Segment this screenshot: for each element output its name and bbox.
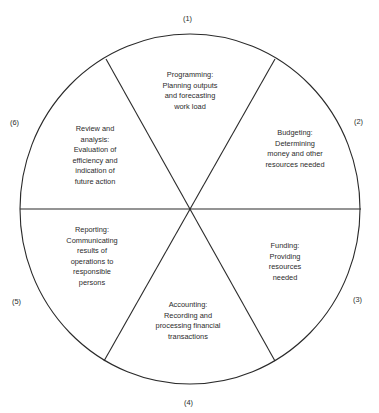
segment-number-2: (2) [354, 117, 363, 126]
segment-review: Review and analysis: Evaluation of effic… [45, 124, 145, 188]
segment-programming: Programming: Planning outputs and foreca… [140, 70, 240, 112]
segment-number-4: (4) [184, 398, 193, 407]
segment-number-1: (1) [183, 14, 192, 23]
segment-text: and forecasting [140, 91, 240, 102]
segment-text: processing financial [138, 321, 238, 332]
segment-text: persons [42, 278, 142, 289]
segment-text: money and other [245, 149, 345, 160]
segment-text: work load [140, 102, 240, 113]
segment-accounting: Accounting: Recording and processing fin… [138, 300, 238, 342]
segment-title: Reporting: [42, 225, 142, 236]
segment-text: future action [45, 177, 145, 188]
segment-text: Recording and [138, 311, 238, 322]
segment-text: transactions [138, 332, 238, 343]
segment-title: Review and [45, 124, 145, 135]
segment-reporting: Reporting: Communicating results of oper… [42, 225, 142, 289]
segment-text: Planning outputs [140, 81, 240, 92]
segment-text: needed [235, 273, 335, 284]
segment-text: resources [235, 262, 335, 273]
segment-title: Budgeting: [245, 128, 345, 139]
cycle-wheel [0, 0, 379, 413]
segment-text: Providing [235, 252, 335, 263]
segment-text: Determining [245, 139, 345, 150]
segment-budgeting: Budgeting: Determining money and other r… [245, 128, 345, 170]
segment-text: Evaluation of [45, 145, 145, 156]
segment-number-6: (6) [10, 118, 19, 127]
segment-title: Programming: [140, 70, 240, 81]
segment-title: analysis: [45, 135, 145, 146]
segment-text: responsible [42, 267, 142, 278]
segment-number-5: (5) [12, 297, 21, 306]
segment-title: Funding: [235, 241, 335, 252]
segment-text: efficiency and [45, 156, 145, 167]
segment-text: Communicating [42, 236, 142, 247]
segment-funding: Funding: Providing resources needed [235, 241, 335, 283]
segment-text: operations to [42, 257, 142, 268]
segment-text: results of [42, 246, 142, 257]
segment-number-3: (3) [353, 295, 362, 304]
segment-text: indication of [45, 166, 145, 177]
segment-text: resources needed [245, 160, 345, 171]
segment-title: Accounting: [138, 300, 238, 311]
